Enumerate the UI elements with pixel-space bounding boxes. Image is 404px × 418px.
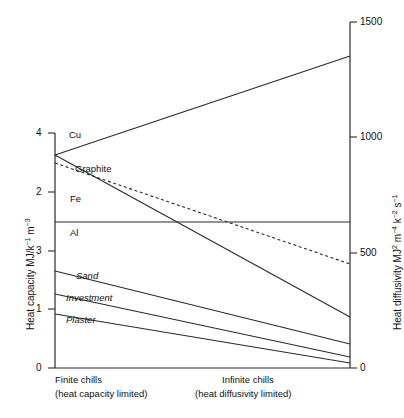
left-axis-title-main: Heat capacity MJ/k (25, 246, 36, 330)
axis-lines (55, 22, 350, 368)
right-axis-title-sup2: −4 (391, 226, 398, 234)
right-axis-title-s: s (392, 203, 403, 211)
left-axis-ticks (48, 133, 55, 368)
right-axis-title-sup4: −1 (391, 195, 398, 203)
series-label-cu: Cu (69, 130, 81, 141)
right-axis-title-main: Heat diffusivity MJ (392, 249, 403, 330)
left-axis-title: Heat capacity MJ/k−1 m−3 (24, 218, 37, 330)
left-tick-label-2: 2 (36, 186, 42, 197)
right-axis-title: Heat diffusivity MJ2 m−4 k−2 s−1 (391, 195, 404, 330)
right-axis-title-sup3: −2 (391, 210, 398, 218)
right-axis-ticks (350, 22, 357, 368)
series-label-fe: Fe (70, 194, 81, 205)
left-tick-label-3: 3 (36, 245, 42, 256)
left-axis-title-mid: m (25, 226, 36, 237)
x-category-left-line2: (heat capacity limited) (55, 389, 147, 400)
right-axis-title-k: k (392, 218, 403, 226)
left-tick-label-4: 4 (36, 127, 42, 138)
series-line-plaster (55, 314, 350, 363)
series-label-plaster: Plaster (66, 315, 96, 326)
left-tick-label-1: 1 (36, 303, 42, 314)
right-tick-label-1500: 1500 (360, 16, 382, 27)
series-line-graphite (55, 163, 350, 264)
series-label-investment: Investment (66, 293, 112, 304)
x-category-left-line1: Finite chills (55, 375, 102, 386)
series-line-cu (55, 56, 350, 155)
left-tick-label-0: 0 (36, 362, 42, 373)
right-axis-title-m: m (392, 234, 403, 245)
right-tick-label-500: 500 (360, 247, 377, 258)
series-lines (55, 56, 350, 363)
right-tick-label-1000: 1000 (360, 131, 382, 142)
series-line-sand (55, 271, 350, 344)
x-category-right-line2: (heat diffusivity limited) (195, 389, 291, 400)
series-label-sand: Sand (76, 271, 98, 282)
x-category-right-line1: Infinite chills (222, 375, 274, 386)
right-tick-label-0: 0 (360, 362, 366, 373)
series-label-graphite: Graphite (75, 164, 111, 175)
right-axis-title-sup1: 2 (391, 245, 398, 249)
series-label-al: Al (70, 228, 78, 239)
left-axis-title-sup2: −3 (24, 218, 31, 226)
left-axis-title-sup1: −1 (24, 238, 31, 246)
